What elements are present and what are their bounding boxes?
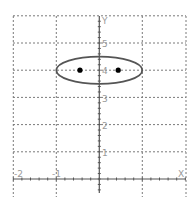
tick-label-x-neg1: -1 — [52, 169, 61, 179]
ellipse-graph: Y X -2 -1 5 4 3 2 1 — [0, 0, 196, 203]
focus-left — [77, 68, 82, 73]
graph-canvas: Y X -2 -1 5 4 3 2 1 — [0, 0, 196, 203]
tick-label-y-1: 1 — [102, 148, 108, 158]
tick-label-y-3: 3 — [102, 94, 108, 104]
tick-label-y-2: 2 — [102, 121, 108, 131]
focus-right — [116, 68, 121, 73]
tick-label-y-4: 4 — [102, 66, 108, 76]
tick-label-y-5: 5 — [102, 39, 108, 49]
x-axis-label: X — [178, 169, 184, 179]
tick-label-x-neg2: -2 — [14, 169, 23, 179]
y-axis-label: Y — [101, 16, 108, 26]
